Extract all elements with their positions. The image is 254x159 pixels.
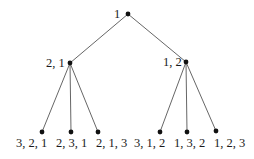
label-3-2-1: 3, 2, 1: [16, 137, 47, 150]
label-1-2-3: 1, 2, 3: [214, 137, 245, 150]
leaf-2-3-1: [69, 130, 74, 135]
node-2-1: [68, 61, 73, 66]
leaf-3-2-1: [40, 130, 45, 135]
label-1-2: 1, 2: [163, 56, 182, 69]
label-1-3-2: 1, 3, 2: [174, 137, 205, 150]
label-root: 1: [114, 8, 120, 21]
node-root: [126, 12, 131, 17]
leaf-1-3-2: [185, 130, 190, 135]
leaf-1-2-3: [214, 129, 219, 134]
label-2-1-3: 2, 1, 3: [96, 137, 127, 150]
node-1-2: [184, 60, 189, 65]
label-3-1-2: 3, 1, 2: [134, 137, 165, 150]
label-2-1: 2, 1: [46, 57, 65, 70]
leaf-2-1-3: [96, 130, 101, 135]
leaf-3-1-2: [158, 130, 163, 135]
label-2-3-1: 2, 3, 1: [56, 137, 87, 150]
